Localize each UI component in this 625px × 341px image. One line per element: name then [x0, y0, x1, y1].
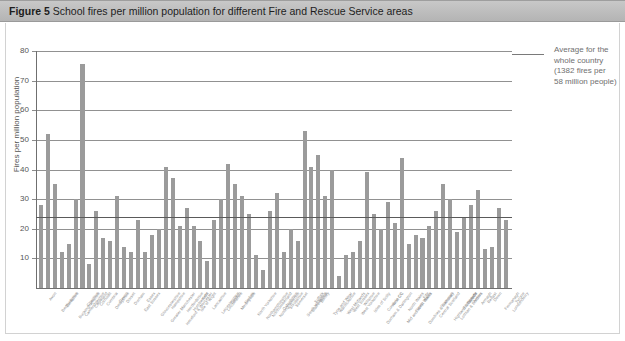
- bar: [136, 220, 140, 288]
- legend-line-swatch: [512, 54, 544, 55]
- bar: [372, 214, 376, 288]
- bar: [233, 184, 237, 288]
- bar: [53, 184, 57, 288]
- y-tick-label-60: 60: [7, 105, 29, 114]
- bar: [323, 196, 327, 288]
- gridline-60: [36, 110, 512, 111]
- bar: [365, 172, 369, 288]
- bar: [122, 247, 126, 288]
- bar: [94, 211, 98, 288]
- bar: [143, 252, 147, 288]
- bar: [448, 199, 452, 288]
- legend-label-line3: (1382 fires per: [554, 66, 625, 77]
- bar: [441, 184, 445, 288]
- bar: [157, 229, 161, 288]
- y-tick-label-20: 20: [7, 224, 29, 233]
- chart-plot-area: Fires per million population 10203040506…: [0, 0, 625, 341]
- bar: [226, 164, 230, 288]
- bar: [80, 64, 84, 288]
- bar: [455, 232, 459, 288]
- bar: [247, 214, 251, 288]
- bar: [74, 199, 78, 288]
- bar: [330, 170, 334, 289]
- legend-label-line1: Average for the: [554, 45, 625, 56]
- bar: [219, 199, 223, 288]
- bar: [115, 196, 119, 288]
- legend-label: Average for the whole country (1382 fire…: [554, 45, 625, 87]
- bar: [108, 241, 112, 288]
- bar: [60, 252, 64, 288]
- legend-label-line2: whole country: [554, 56, 625, 67]
- y-axis-line: [36, 51, 37, 288]
- bar: [400, 158, 404, 288]
- bar: [476, 190, 480, 288]
- bar: [275, 193, 279, 288]
- y-tick-label-80: 80: [7, 46, 29, 55]
- bar: [282, 252, 286, 288]
- bar: [268, 211, 272, 288]
- bar: [309, 167, 313, 288]
- bar: [178, 226, 182, 288]
- bar: [240, 196, 244, 288]
- bar: [150, 235, 154, 288]
- bar: [483, 249, 487, 288]
- bar: [303, 131, 307, 288]
- bar: [101, 238, 105, 288]
- bar: [192, 226, 196, 288]
- bar: [386, 202, 390, 288]
- bar: [344, 255, 348, 288]
- gridline-40: [36, 170, 512, 171]
- figure-root: Figure 5 School fires per million popula…: [0, 0, 625, 341]
- x-axis-label: Avon: [47, 291, 57, 302]
- bar: [67, 244, 71, 288]
- bar: [185, 208, 189, 288]
- bar: [337, 276, 341, 288]
- y-tick-label-10: 10: [7, 253, 29, 262]
- gridline-80: [36, 51, 512, 52]
- bar: [205, 261, 209, 288]
- bar: [490, 247, 494, 288]
- gridline-70: [36, 81, 512, 82]
- bar: [289, 229, 293, 288]
- legend-label-line4: 58 million people): [554, 77, 625, 88]
- bar: [171, 178, 175, 288]
- bar: [358, 241, 362, 288]
- x-axis-line: [36, 288, 512, 289]
- bar: [254, 255, 258, 288]
- y-tick-label-30: 30: [7, 194, 29, 203]
- bar: [427, 226, 431, 288]
- y-tick-label-70: 70: [7, 76, 29, 85]
- bar: [379, 229, 383, 288]
- bar: [393, 223, 397, 288]
- bar: [351, 252, 355, 288]
- bar: [129, 252, 133, 288]
- bar: [420, 238, 424, 288]
- bar: [164, 167, 168, 288]
- bar: [504, 220, 508, 288]
- bar: [46, 134, 50, 288]
- bar: [87, 264, 91, 288]
- y-tick-label-40: 40: [7, 165, 29, 174]
- average-line: [36, 217, 512, 218]
- bar: [261, 270, 265, 288]
- bar: [296, 241, 300, 288]
- bar: [462, 217, 466, 288]
- bar: [414, 235, 418, 288]
- bar: [316, 155, 320, 288]
- bar: [212, 220, 216, 288]
- y-tick-label-50: 50: [7, 135, 29, 144]
- bar: [407, 244, 411, 288]
- gridline-50: [36, 140, 512, 141]
- bar: [198, 241, 202, 288]
- bar: [497, 208, 501, 288]
- bar: [434, 211, 438, 288]
